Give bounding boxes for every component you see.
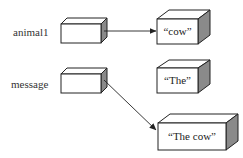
string-value-the: “The” — [164, 74, 191, 86]
variable-label-message: message — [11, 78, 48, 90]
string-object-cow: “cow” — [157, 10, 210, 44]
memory-diagram: animal1 “cow” message “The” — [0, 0, 243, 158]
string-value-the-cow: “The cow” — [168, 130, 216, 142]
reference-box-message — [61, 68, 107, 93]
reference-box-animal1 — [61, 18, 107, 43]
variable-message: message — [11, 68, 107, 93]
string-value-cow: “cow” — [163, 25, 191, 37]
string-object-the: “The” — [157, 60, 210, 93]
variable-animal1: animal1 — [13, 18, 107, 43]
reference-arrow-message — [104, 80, 156, 130]
string-object-the-cow: “The cow” — [158, 114, 238, 150]
variable-label-animal1: animal1 — [13, 26, 48, 38]
